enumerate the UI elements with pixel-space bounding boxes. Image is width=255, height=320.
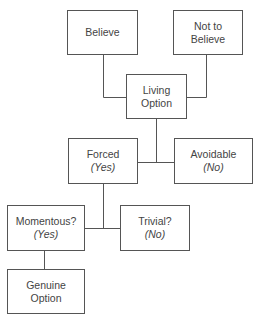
node-label: Genuine [26, 279, 66, 292]
node-forced: Forced (Yes) [68, 138, 138, 184]
node-label-line2: Option [31, 292, 62, 305]
node-label: Avoidable [191, 148, 237, 161]
node-answer: (Yes) [34, 228, 59, 241]
edge-believe-living [104, 55, 127, 98]
node-label-line2: Believe [191, 33, 225, 46]
node-genuine-option: Genuine Option [7, 269, 85, 314]
node-label: Believe [85, 26, 119, 39]
node-momentous: Momentous? (Yes) [7, 205, 85, 251]
node-not-to-believe: Not to Believe [173, 10, 243, 55]
node-living-option: Living Option [126, 74, 187, 119]
node-label: Not to [194, 20, 222, 33]
node-answer: (Yes) [91, 161, 116, 174]
node-label: Forced [87, 148, 120, 161]
node-avoidable: Avoidable (No) [174, 138, 253, 184]
node-label: Living [143, 84, 170, 97]
node-label-line2: Option [141, 97, 172, 110]
edge-notbelieve-living [187, 55, 207, 98]
node-label: Trivial? [138, 215, 171, 228]
node-label: Momentous? [16, 215, 77, 228]
node-answer: (No) [203, 161, 223, 174]
node-believe: Believe [67, 10, 138, 55]
node-trivial: Trivial? (No) [120, 205, 190, 251]
node-answer: (No) [145, 228, 165, 241]
